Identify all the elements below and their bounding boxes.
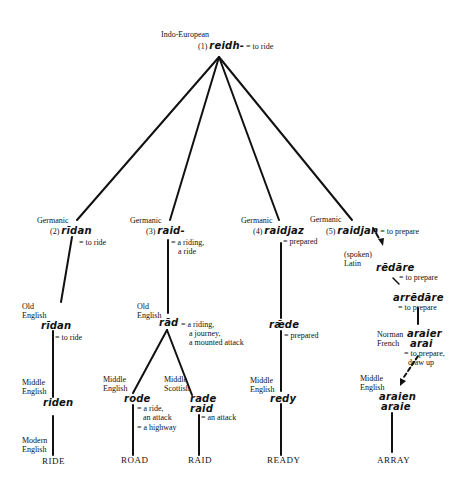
- raid-ms-language-1: Middle: [164, 375, 187, 384]
- raid-oe-gloss-2: a journey,: [189, 329, 220, 338]
- raid-modern-word: RAID: [188, 456, 212, 465]
- ready-modern-word: READY: [267, 456, 301, 465]
- ride-oe-gloss: = to ride: [55, 333, 82, 342]
- edge-root-to-raidjaz: [219, 57, 279, 220]
- road-gloss-2: an attack: [143, 413, 172, 422]
- raid-oe-form: rād: [159, 318, 178, 327]
- ride-me-language-2: English: [22, 387, 46, 396]
- array-latin-gloss: = to prepare: [399, 273, 438, 282]
- ride-germanic-language: Germanic: [37, 216, 69, 225]
- array-nf-language-1: Norman: [377, 330, 403, 339]
- root-language: Indo-European: [161, 30, 209, 39]
- raid-oe-language-2: English: [137, 311, 161, 320]
- raid-germanic-number: (3): [146, 227, 155, 236]
- array-germanic-gloss: = to prepare: [380, 227, 419, 236]
- road-modern-word: ROAD: [121, 456, 149, 465]
- ready-germanic-language: Germanic: [241, 216, 273, 225]
- array-nf-form-2: arai: [410, 339, 433, 348]
- array-me-form-1: araien: [379, 392, 416, 401]
- edge-root-to-raidjan: [219, 57, 352, 220]
- array-nf-language-2: French: [377, 339, 399, 348]
- raid-ms-language-2: Scottish: [164, 384, 190, 393]
- raid-germanic-gloss-1: = a riding,: [171, 238, 204, 247]
- raid-germanic-form: raid-: [157, 225, 184, 236]
- array-me-language-1: Middle: [360, 374, 383, 383]
- ride-modern-language-1: Modern: [22, 436, 47, 445]
- root-form: reidh-: [209, 40, 244, 51]
- root-number: (1): [198, 42, 207, 51]
- array-germanic-label: (5) raidjan = to prepare: [326, 226, 419, 236]
- ride-modern-language-2: English: [22, 445, 46, 454]
- edge-root-to-raid: [170, 57, 219, 220]
- raid-ms-form-1: rade: [190, 394, 216, 403]
- ride-oe-language-2: English: [22, 311, 46, 320]
- raid-oe-gloss-1: = a riding,: [181, 320, 214, 329]
- ready-oe-form: rǣde: [269, 320, 299, 329]
- array-germanic-number: (5): [326, 227, 335, 236]
- root-gloss: = to ride: [246, 42, 273, 51]
- ride-me-form: riden: [43, 398, 73, 407]
- raid-ms-form-2: raid: [190, 404, 213, 413]
- ready-germanic-number: (4): [253, 227, 262, 236]
- array-latin2-gloss: = to prepare: [398, 303, 437, 312]
- ready-me-form: redy: [270, 394, 296, 403]
- ready-me-language-1: Middle: [250, 376, 273, 385]
- raid-gloss: = an attack: [201, 413, 236, 422]
- ride-germanic-gloss: = to ride: [79, 238, 106, 247]
- array-latin-form: rēdāre: [376, 263, 415, 272]
- array-germanic-form: raidjan: [337, 225, 378, 236]
- array-latin-language-2: Latin: [344, 259, 361, 268]
- array-germanic-language: Germanic: [310, 215, 342, 224]
- ride-me-language-1: Middle: [22, 378, 45, 387]
- road-gloss-3: = a highway: [137, 423, 177, 432]
- ready-germanic-gloss: = prepared: [283, 237, 318, 246]
- ride-germanic-label: (2) rīdan: [50, 226, 92, 236]
- edge-root-to-ridan: [77, 57, 219, 220]
- ride-oe-form: rīdan: [41, 321, 71, 330]
- array-latin2-form: arrēdāre: [393, 293, 444, 302]
- array-me-form-2: araie: [381, 402, 411, 411]
- ride-modern-word: RIDE: [42, 457, 65, 466]
- array-nf-gloss-2: draw up: [408, 358, 434, 367]
- ride-oe-language-1: Old: [22, 302, 34, 311]
- root-label: (1) reidh- = to ride: [198, 41, 273, 51]
- array-nf-form-1: araier: [407, 329, 442, 338]
- road-me-language-2: English: [103, 384, 127, 393]
- ride-germanic-number: (2): [50, 227, 59, 236]
- road-gloss-1: = a ride,: [137, 404, 164, 413]
- array-nf-gloss-1: = to prepare,: [404, 349, 445, 358]
- ready-oe-gloss: = prepared: [284, 331, 319, 340]
- array-latin-language-1: (spoken): [344, 250, 372, 259]
- road-me-language-1: Middle: [103, 375, 126, 384]
- ready-germanic-form: raidjaz: [264, 225, 304, 236]
- raid-germanic-language: Germanic: [130, 216, 162, 225]
- ride-germanic-form: rīdan: [61, 225, 91, 236]
- raid-oe-gloss-3: a mounted attack: [189, 338, 244, 347]
- raid-germanic-label: (3) raid-: [146, 226, 185, 236]
- raid-oe-language-1: Old: [137, 302, 149, 311]
- raid-germanic-gloss-2: a ride: [178, 247, 196, 256]
- ready-germanic-label: (4) raidjaz: [253, 226, 304, 236]
- array-modern-word: ARRAY: [377, 456, 410, 465]
- road-me-form: rode: [124, 394, 151, 403]
